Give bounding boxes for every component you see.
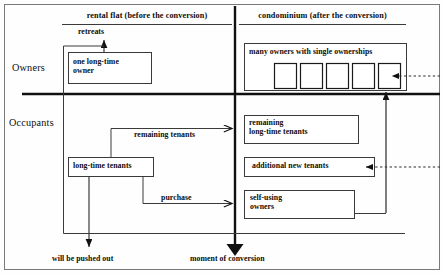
label-will-be-pushed-out: will be pushed out: [52, 255, 113, 264]
label-moment-of-conversion: moment of conversion: [190, 255, 265, 264]
row-label-owners: Owners: [12, 62, 45, 73]
label-purchase: purchase: [161, 194, 192, 203]
label-remaining-long-time-tenants: remaining long-time tenants: [249, 119, 308, 136]
header-right: condominium (after the conversion): [239, 11, 406, 20]
ownership-unit-5[interactable]: [379, 64, 401, 89]
header-left: rental flat (before the conversion): [62, 11, 232, 20]
label-long-time-tenants: long-time tenants: [73, 162, 132, 171]
ownership-unit-1[interactable]: [275, 64, 297, 89]
label-additional-new-tenants: additional new tenants: [252, 162, 328, 171]
ownership-unit-2[interactable]: [301, 64, 323, 89]
label-one-long-time-owner: one long-time owner: [73, 58, 119, 75]
ownership-unit-4[interactable]: [353, 64, 375, 89]
diagram-canvas: rental flat (before the conversion) cond…: [0, 0, 444, 274]
diagram-vector-layer: [0, 0, 444, 274]
label-remaining-tenants: remaining tenants: [134, 131, 195, 140]
ownership-unit-3[interactable]: [327, 64, 349, 89]
row-label-occupants: Occupants: [9, 117, 54, 128]
label-many-owners: many owners with single ownerships: [249, 48, 372, 57]
label-retreats: retreats: [78, 28, 104, 37]
label-self-using-owners: self-using owners: [250, 194, 282, 211]
